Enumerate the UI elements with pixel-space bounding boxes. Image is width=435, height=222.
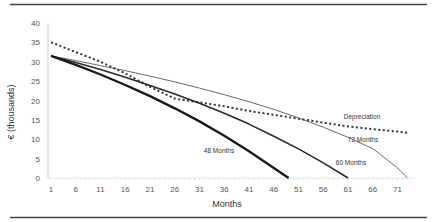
x-tick-label: 41	[245, 185, 254, 194]
x-axis-title: Months	[212, 199, 242, 209]
x-tick-label: 16	[121, 185, 130, 194]
label-72-months: 72 Months	[348, 136, 379, 143]
label-48-months: 48 Months	[204, 147, 235, 154]
label-depreciation: Depreciation	[344, 113, 381, 121]
x-tick-label: 1	[49, 185, 54, 194]
y-tick-label: 25	[31, 77, 40, 86]
y-tick-label: 40	[31, 19, 40, 28]
x-tick-label: 71	[393, 185, 402, 194]
x-tick-label: 61	[344, 185, 353, 194]
series-line-60-months	[51, 56, 348, 178]
x-tick-label: 21	[146, 185, 155, 194]
y-axis: 0510152025303540	[31, 19, 48, 183]
x-tick-label: 36	[220, 185, 229, 194]
x-tick-label: 51	[294, 185, 303, 194]
y-tick-label: 0	[36, 174, 41, 183]
y-tick-label: 5	[36, 155, 41, 164]
y-tick-label: 10	[31, 135, 40, 144]
label-60-months: 60 Months	[336, 159, 367, 166]
x-tick-label: 46	[269, 185, 278, 194]
x-tick-label: 56	[319, 185, 328, 194]
x-tick-label: 11	[96, 185, 105, 194]
x-axis: 1611162126313641465156616671	[48, 178, 415, 194]
series-line-48-months	[51, 56, 289, 178]
y-tick-label: 20	[31, 97, 40, 106]
x-tick-label: 26	[170, 185, 179, 194]
y-tick-label: 15	[31, 116, 40, 125]
series-group	[51, 42, 407, 178]
y-tick-label: 35	[31, 38, 40, 47]
x-tick-label: 31	[195, 185, 204, 194]
x-tick-label: 66	[368, 185, 377, 194]
y-tick-label: 30	[31, 58, 40, 67]
x-tick-label: 6	[74, 185, 79, 194]
chart-canvas: 0510152025303540 16111621263136414651566…	[0, 0, 435, 222]
y-axis-title: € (thousands)	[6, 84, 16, 139]
